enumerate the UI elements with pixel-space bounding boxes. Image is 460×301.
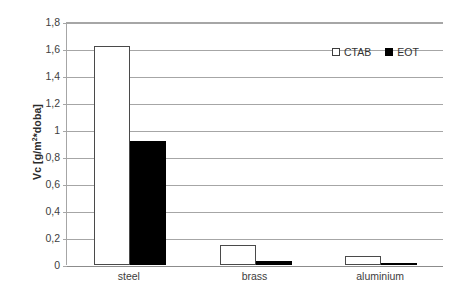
x-axis-category-labels: steelbrassaluminium xyxy=(66,270,443,290)
bar-aluminium-eot xyxy=(381,263,417,265)
chart-legend: CTAB EOT xyxy=(332,46,419,58)
legend-entry-eot: EOT xyxy=(385,46,419,58)
y-axis-tick-label: 1,2 xyxy=(20,97,60,109)
legend-entry-ctab: CTAB xyxy=(332,46,371,58)
plot-area: CTAB EOT xyxy=(66,22,443,265)
bar-aluminium-ctab xyxy=(345,256,381,265)
y-axis-tick-label: 0,6 xyxy=(20,178,60,190)
y-axis-tick-label: 1,6 xyxy=(20,43,60,55)
y-axis-tickmark xyxy=(63,266,67,267)
y-axis-tick-label: 0,8 xyxy=(20,151,60,163)
legend-swatch-ctab-icon xyxy=(332,48,340,56)
x-axis-label-steel: steel xyxy=(118,270,140,282)
y-axis-tick-label: 1 xyxy=(20,124,60,136)
bar-steel-eot xyxy=(130,141,166,265)
x-axis-label-brass: brass xyxy=(242,270,268,282)
x-axis-label-aluminium: aluminium xyxy=(356,270,404,282)
y-axis-tick-label: 0 xyxy=(20,259,60,271)
bars-layer xyxy=(67,23,443,265)
y-axis-tick-label: 0,2 xyxy=(20,232,60,244)
bar-steel-ctab xyxy=(94,46,130,265)
legend-label-eot: EOT xyxy=(397,46,419,58)
y-axis-tick-label: 1,4 xyxy=(20,70,60,82)
bar-brass-eot xyxy=(256,261,292,265)
bar-chart: Vc [g/m2*doba] 00,20,40,60,811,21,41,61,… xyxy=(0,0,460,301)
gridline xyxy=(67,266,443,267)
y-axis-tick-label: 0,4 xyxy=(20,205,60,217)
y-axis-tick-label: 1,8 xyxy=(20,16,60,28)
legend-label-ctab: CTAB xyxy=(344,46,371,58)
bar-brass-ctab xyxy=(220,245,256,265)
legend-swatch-eot-icon xyxy=(385,48,393,56)
y-axis-tick-labels: 00,20,40,60,811,21,41,61,8 xyxy=(20,22,60,265)
